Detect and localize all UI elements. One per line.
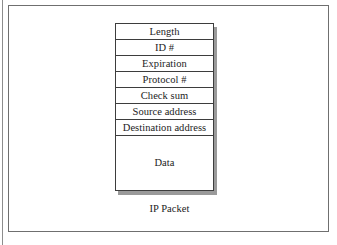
packet-field-source-address: Source address: [116, 104, 213, 120]
packet-field-id-number: ID #: [116, 40, 213, 56]
packet-field-length: Length: [116, 24, 213, 40]
ip-packet-diagram: Length ID # Expiration Protocol # Check …: [9, 6, 328, 231]
figure-frame: Length ID # Expiration Protocol # Check …: [8, 5, 329, 232]
figure-caption: IP Packet: [9, 203, 330, 214]
page-edge-artifact: [2, 0, 3, 245]
packet-field-expiration: Expiration: [116, 56, 213, 72]
packet-field-check-sum: Check sum: [116, 88, 213, 104]
packet-field-data: Data: [116, 136, 213, 190]
packet-field-protocol-number: Protocol #: [116, 72, 213, 88]
ip-packet-box: Length ID # Expiration Protocol # Check …: [115, 23, 214, 191]
packet-field-destination-address: Destination address: [116, 120, 213, 136]
